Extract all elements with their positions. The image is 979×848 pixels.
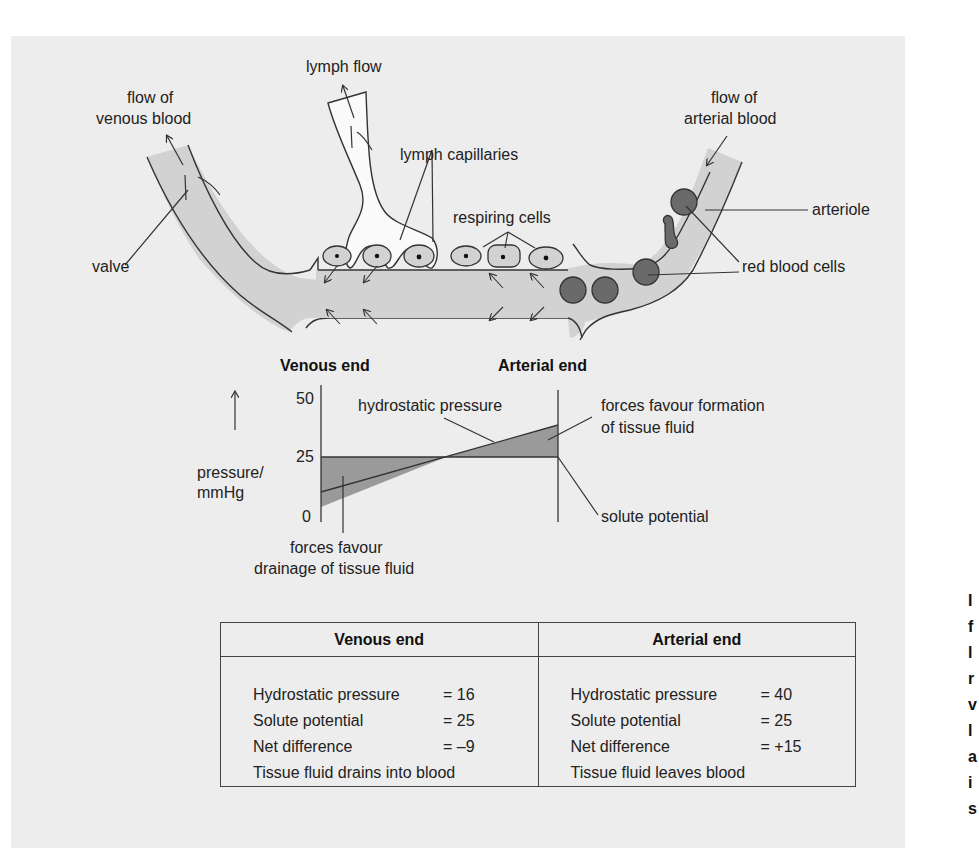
- label-red-blood-cells: red blood cells: [742, 258, 845, 275]
- side-text-char: l: [968, 644, 972, 662]
- ylabel-line2: mmHg: [197, 484, 244, 501]
- label-flow-venous-2: venous blood: [96, 110, 191, 127]
- side-text-char: I: [968, 592, 972, 610]
- table-row: Solute potential= 25: [253, 708, 538, 734]
- table-column-venous: Venous end Hydrostatic pressure= 16 Solu…: [221, 623, 538, 786]
- lymph-vessel: [328, 86, 437, 268]
- row-label: Net difference: [253, 738, 443, 756]
- label-flow-arterial-2: arterial blood: [684, 110, 777, 127]
- row-label: Net difference: [571, 738, 761, 756]
- table-column-arterial: Arterial end Hydrostatic pressure= 40 So…: [538, 623, 856, 786]
- annot-drainage-1: forces favour: [290, 539, 383, 556]
- label-lymph-capillaries: lymph capillaries: [400, 146, 518, 163]
- table-header: Arterial end: [539, 623, 856, 657]
- row-label: Hydrostatic pressure: [253, 686, 443, 704]
- side-text-char: s: [968, 800, 977, 818]
- label-arteriole: arteriole: [812, 201, 870, 218]
- label-respiring-cells: respiring cells: [453, 209, 551, 226]
- annot-formation-1: forces favour formation: [601, 397, 765, 414]
- label-flow-arterial-1: flow of: [711, 89, 758, 106]
- chart-venous-end-label: Venous end: [280, 357, 370, 374]
- table-row: Net difference= +15: [571, 734, 856, 760]
- ytick-0: 0: [302, 508, 311, 525]
- row-value: = –9: [443, 738, 475, 756]
- row-label: Solute potential: [253, 712, 443, 730]
- table-row: Net difference= –9: [253, 734, 538, 760]
- chart-arterial-end-label: Arterial end: [498, 357, 587, 374]
- label-valve: valve: [92, 258, 129, 275]
- ytick-50: 50: [296, 390, 314, 407]
- row-value: = 16: [443, 686, 475, 704]
- row-label: Solute potential: [571, 712, 761, 730]
- annot-formation-2: of tissue fluid: [601, 419, 694, 436]
- ytick-25: 25: [296, 448, 314, 465]
- side-text-char: l: [968, 722, 972, 740]
- row-value: = 25: [443, 712, 475, 730]
- side-text-char: v: [968, 696, 977, 714]
- table-conclusion: Tissue fluid drains into blood: [253, 760, 538, 786]
- row-value: = +15: [761, 738, 802, 756]
- table-row: Hydrostatic pressure= 16: [253, 682, 538, 708]
- table-row: Hydrostatic pressure= 40: [571, 682, 856, 708]
- row-label: Hydrostatic pressure: [571, 686, 761, 704]
- table-conclusion: Tissue fluid leaves blood: [571, 760, 856, 786]
- side-text-char: i: [968, 774, 972, 792]
- side-text-char: f: [968, 618, 973, 636]
- annot-drainage-2: drainage of tissue fluid: [254, 560, 414, 577]
- summary-table: Venous end Hydrostatic pressure= 16 Solu…: [220, 622, 856, 787]
- annot-solute: solute potential: [601, 508, 709, 525]
- row-value: = 40: [761, 686, 793, 704]
- capillary: [316, 270, 581, 318]
- side-text-char: a: [968, 748, 977, 766]
- table-header: Venous end: [221, 623, 538, 657]
- table-row: Solute potential= 25: [571, 708, 856, 734]
- label-flow-venous-1: flow of: [127, 89, 174, 106]
- annot-hydrostatic: hydrostatic pressure: [358, 397, 502, 414]
- ylabel-line1: pressure/: [197, 464, 264, 481]
- row-value: = 25: [761, 712, 793, 730]
- label-lymph-flow: lymph flow: [306, 58, 382, 75]
- side-text-char: r: [968, 670, 974, 688]
